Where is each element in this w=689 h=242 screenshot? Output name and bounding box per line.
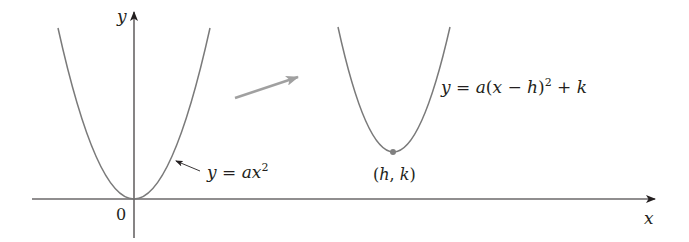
shifted-parabola-curve: [338, 27, 450, 152]
x-axis-label: x: [644, 208, 654, 228]
vertex-point: [390, 149, 396, 155]
base-parabola-label: y = ax2: [206, 161, 268, 182]
y-axis-label: y: [116, 6, 127, 26]
translation-arrow: [235, 77, 298, 98]
parabola-translation-diagram: y x 0 y = ax2 (h, k) y = a(x − h)2 + k: [0, 0, 689, 242]
shifted-parabola-label: y = a(x − h)2 + k: [440, 76, 587, 97]
vertex-label: (h, k): [373, 165, 416, 184]
origin-label: 0: [116, 205, 126, 224]
base-parabola-pointer: [176, 161, 200, 171]
